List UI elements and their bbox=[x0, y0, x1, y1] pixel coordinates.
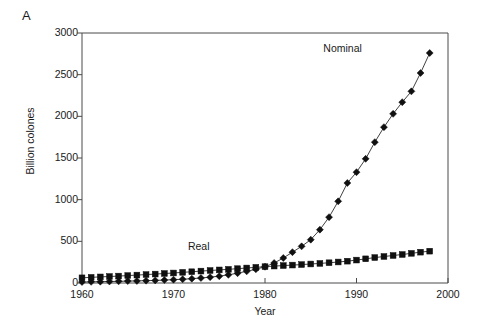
marker-nominal-12 bbox=[188, 275, 195, 282]
marker-nominal-22 bbox=[280, 255, 287, 262]
marker-real-14 bbox=[207, 268, 213, 274]
marker-real-33 bbox=[381, 254, 387, 260]
marker-real-20 bbox=[262, 264, 268, 270]
marker-nominal-27 bbox=[326, 214, 333, 221]
marker-real-5 bbox=[125, 273, 131, 279]
marker-real-19 bbox=[253, 264, 259, 270]
marker-real-23 bbox=[290, 262, 296, 268]
figure-panel-a: A Billion colones Year 05001000150020002… bbox=[0, 0, 478, 327]
marker-real-21 bbox=[271, 263, 277, 269]
plot-area bbox=[0, 0, 478, 327]
marker-nominal-23 bbox=[289, 249, 296, 256]
marker-real-8 bbox=[152, 271, 158, 277]
marker-real-36 bbox=[409, 250, 415, 256]
marker-real-9 bbox=[161, 271, 167, 277]
marker-real-11 bbox=[180, 269, 186, 275]
series-line-nominal bbox=[82, 53, 430, 282]
marker-real-27 bbox=[326, 260, 332, 266]
marker-real-13 bbox=[198, 268, 204, 274]
marker-real-26 bbox=[317, 261, 323, 267]
marker-real-22 bbox=[280, 263, 286, 269]
marker-real-29 bbox=[344, 258, 350, 264]
marker-real-32 bbox=[372, 255, 378, 261]
marker-nominal-38 bbox=[426, 50, 433, 57]
marker-real-3 bbox=[107, 274, 113, 280]
marker-real-10 bbox=[171, 270, 177, 276]
marker-nominal-15 bbox=[216, 273, 223, 280]
marker-real-34 bbox=[390, 253, 396, 259]
marker-real-38 bbox=[427, 248, 433, 254]
marker-real-1 bbox=[88, 274, 94, 280]
marker-real-6 bbox=[134, 272, 140, 278]
marker-real-30 bbox=[354, 257, 360, 263]
marker-real-16 bbox=[226, 266, 232, 272]
marker-nominal-24 bbox=[298, 243, 305, 250]
marker-real-17 bbox=[235, 266, 241, 272]
marker-nominal-32 bbox=[371, 139, 378, 146]
marker-nominal-28 bbox=[335, 198, 342, 205]
marker-real-2 bbox=[97, 274, 103, 280]
marker-nominal-33 bbox=[380, 124, 387, 131]
axis-frame bbox=[82, 33, 448, 283]
marker-real-0 bbox=[79, 275, 85, 281]
marker-real-12 bbox=[189, 269, 195, 275]
marker-nominal-37 bbox=[417, 70, 424, 77]
marker-real-15 bbox=[216, 267, 222, 273]
marker-nominal-13 bbox=[197, 275, 204, 282]
marker-real-28 bbox=[335, 259, 341, 265]
marker-nominal-10 bbox=[170, 276, 177, 283]
marker-real-25 bbox=[308, 261, 314, 267]
marker-nominal-31 bbox=[362, 155, 369, 162]
marker-real-7 bbox=[143, 272, 149, 278]
marker-nominal-14 bbox=[207, 274, 214, 281]
marker-real-37 bbox=[418, 249, 424, 255]
marker-real-35 bbox=[399, 252, 405, 258]
marker-nominal-11 bbox=[179, 276, 186, 283]
marker-real-18 bbox=[244, 265, 250, 271]
marker-real-4 bbox=[116, 273, 122, 279]
marker-real-31 bbox=[363, 256, 369, 262]
marker-real-24 bbox=[299, 262, 305, 268]
